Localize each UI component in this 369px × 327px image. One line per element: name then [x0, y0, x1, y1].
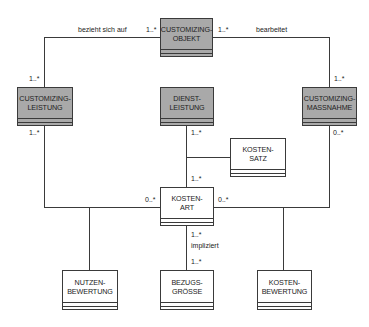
class-nutzen-bewertung: NUTZEN- BEWERTUNG: [62, 270, 118, 310]
multiplicity-label: 1..*: [191, 258, 202, 265]
multiplicity-label: 1..*: [29, 75, 40, 82]
class-name: KOSTEN- ART: [161, 188, 213, 218]
operation-compartment: [161, 222, 213, 225]
class-name: CUSTOMIZING- MASSNAHME: [303, 88, 356, 118]
multiplicity-label: 1..*: [29, 129, 40, 136]
line-bezieht-sich-auf: [45, 38, 161, 88]
multiplicity-label: 0..*: [145, 196, 156, 203]
class-name: KOSTEN- SATZ: [231, 139, 285, 169]
class-name: CUSTOMIZING- LEISTUNG: [18, 88, 72, 118]
class-customizing-leistung: CUSTOMIZING- LEISTUNG: [17, 87, 73, 126]
class-name: NUTZEN- BEWERTUNG: [63, 271, 117, 302]
multiplicity-label: 1..*: [146, 26, 157, 33]
class-customizing-objekt: CUSTOMIZING- OBJEKT: [160, 18, 213, 57]
line-bearbeitet: [212, 38, 330, 88]
operation-compartment: [258, 306, 311, 309]
multiplicity-label: 1..*: [191, 129, 202, 136]
class-kosten-satz: KOSTEN- SATZ: [230, 138, 286, 177]
association-label-bezieht-sich-auf: bezieht sich auf: [78, 26, 127, 33]
operation-compartment: [161, 122, 213, 125]
multiplicity-label: 0..*: [218, 196, 229, 203]
multiplicity-label: 0..*: [333, 129, 344, 136]
association-label-impliziert: impliziert: [191, 242, 219, 249]
class-kosten-art: KOSTEN- ART: [160, 187, 214, 226]
operation-compartment: [161, 53, 212, 56]
class-dienst-leistung: DIENST- LEISTUNG: [160, 87, 214, 126]
multiplicity-label: 1..*: [334, 75, 345, 82]
class-name: CUSTOMIZING- OBJEKT: [161, 19, 212, 49]
class-customizing-massnahme: CUSTOMIZING- MASSNAHME: [302, 87, 357, 126]
class-name: BEZUGS- GRÖSSE: [161, 271, 213, 302]
multiplicity-label: 1..*: [191, 175, 202, 182]
line-leistung-kostenart: [45, 125, 161, 208]
operation-compartment: [161, 306, 213, 309]
class-name: KOSTEN- BEWERTUNG: [258, 271, 311, 302]
multiplicity-label: 1..*: [218, 26, 229, 33]
class-name: DIENST- LEISTUNG: [161, 88, 213, 118]
uml-class-diagram: CUSTOMIZING- OBJEKT CUSTOMIZING- LEISTUN…: [0, 0, 369, 327]
class-kosten-bewertung: KOSTEN- BEWERTUNG: [257, 270, 312, 310]
operation-compartment: [303, 122, 356, 125]
operation-compartment: [63, 306, 117, 309]
multiplicity-label: 1..*: [191, 231, 202, 238]
operation-compartment: [18, 122, 72, 125]
operation-compartment: [231, 173, 285, 176]
class-bezugs-groesse: BEZUGS- GRÖSSE: [160, 270, 214, 310]
association-label-bearbeitet: bearbeitet: [256, 26, 287, 33]
